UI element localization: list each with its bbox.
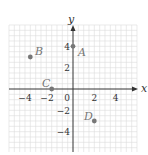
y-tick-neg4: −4 — [57, 127, 71, 137]
x-tick-neg4: −4 — [18, 93, 32, 103]
point-b — [28, 55, 33, 60]
coordinate-plane: x y −4 −2 0 2 4 4 2 −2 −4 A B C D — [0, 0, 148, 155]
x-tick-2: 2 — [91, 93, 97, 103]
point-d-label: D — [83, 110, 93, 123]
y-tick-2: 2 — [64, 63, 70, 73]
x-tick-neg2: −2 — [40, 93, 53, 103]
point-a-label: A — [77, 46, 86, 59]
y-axis-label: y — [67, 13, 75, 26]
point-c-label: C — [42, 77, 51, 90]
y-tick-4: 4 — [64, 42, 70, 52]
x-axis-label: x — [141, 82, 148, 95]
y-tick-neg2: −2 — [57, 106, 70, 116]
point-b-label: B — [34, 45, 43, 58]
point-a — [71, 44, 76, 49]
x-tick-4: 4 — [113, 93, 119, 103]
x-tick-0: 0 — [64, 93, 70, 103]
